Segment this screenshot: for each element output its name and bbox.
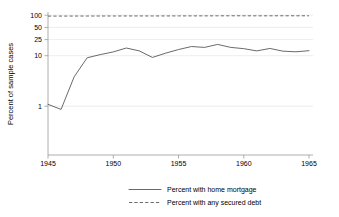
legend: Percent with home mortgage Percent with … [129, 186, 261, 207]
series-line-home-mortgage [48, 44, 309, 109]
y-tick-labels: 100 50 25 10 1 [30, 12, 42, 110]
y-gridlines [48, 15, 313, 106]
x-tick-label-1965: 1965 [301, 160, 317, 167]
line-chart: 100 50 25 10 1 1945 1950 1955 1960 1965 … [0, 0, 339, 217]
chart-figure: 100 50 25 10 1 1945 1950 1955 1960 1965 … [0, 0, 339, 217]
y-tick-label-10: 10 [34, 52, 42, 59]
y-ticks [45, 15, 49, 106]
x-tick-label-1945: 1945 [40, 160, 56, 167]
axis-lines [48, 12, 313, 155]
x-ticks [48, 155, 309, 159]
x-tick-label-1960: 1960 [236, 160, 252, 167]
x-tick-label-1950: 1950 [106, 160, 122, 167]
y-tick-label-25: 25 [34, 36, 42, 43]
legend-label-secured-debt: Percent with any secured debt [167, 199, 261, 207]
y-axis-title: Percent of sample cases [6, 43, 15, 125]
y-tick-label-100: 100 [30, 12, 42, 19]
y-tick-label-50: 50 [34, 24, 42, 31]
x-tick-labels: 1945 1950 1955 1960 1965 [40, 160, 317, 167]
legend-label-home-mortgage: Percent with home mortgage [167, 186, 257, 194]
x-tick-label-1955: 1955 [171, 160, 187, 167]
y-tick-label-1: 1 [38, 103, 42, 110]
